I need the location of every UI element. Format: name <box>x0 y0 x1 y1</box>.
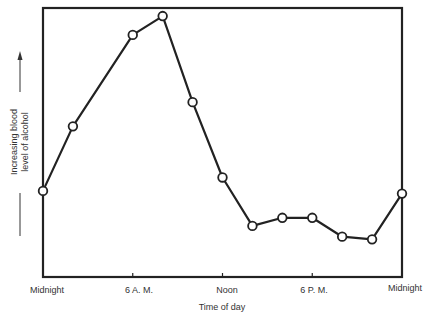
data-point <box>308 214 317 223</box>
line-chart <box>0 0 431 315</box>
data-point <box>69 122 78 131</box>
x-tick-label-midnight-start: Midnight <box>30 285 64 295</box>
data-point <box>188 98 197 107</box>
data-point <box>39 187 48 196</box>
data-point <box>278 214 287 223</box>
x-tick-label-noon: Noon <box>216 285 238 295</box>
data-point <box>248 222 257 231</box>
data-point-markers <box>39 12 407 244</box>
x-axis-label: Time of day <box>199 302 246 312</box>
x-tick-label-6am: 6 A. M. <box>125 285 153 295</box>
y-axis-label: Increasing blood level of alcohol <box>9 109 31 175</box>
data-point <box>398 189 407 198</box>
data-point <box>368 235 377 244</box>
data-point <box>158 12 167 21</box>
series-line <box>43 16 402 239</box>
data-point <box>338 232 347 241</box>
data-point <box>128 31 137 40</box>
data-point <box>218 173 227 182</box>
x-tick-label-6pm: 6 P. M. <box>300 285 327 295</box>
x-tick-label-midnight-end: Midnight <box>388 283 422 293</box>
